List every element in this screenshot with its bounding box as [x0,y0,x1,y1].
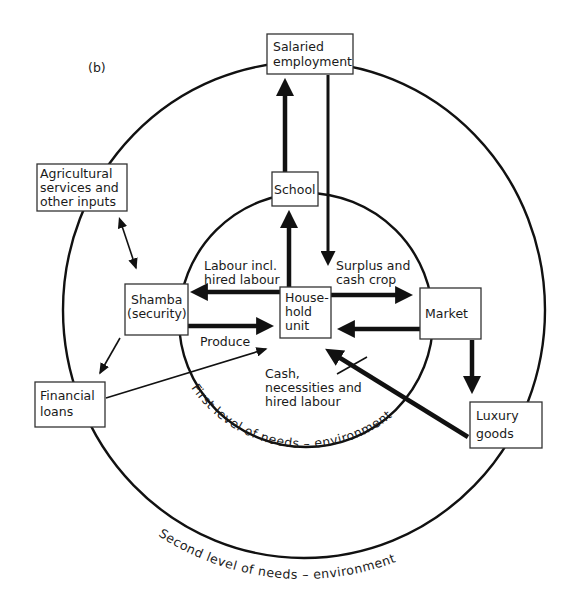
svg-text:employment: employment [273,54,352,69]
node-household-unit: House- hold unit [280,287,331,338]
arrow-agri-shamba [122,226,136,268]
svg-text:other inputs: other inputs [40,194,116,209]
svg-text:Labour incl.: Labour incl. [204,258,277,273]
panel-label: (b) [88,60,106,75]
svg-text:Cash,: Cash, [265,366,300,381]
svg-text:services and: services and [40,180,119,195]
arrow-shamba-to-loans [100,338,120,373]
svg-text:unit: unit [285,318,309,333]
svg-text:hired labour: hired labour [265,394,341,409]
svg-text:Shamba: Shamba [131,292,182,307]
svg-text:hired labour: hired labour [204,272,280,287]
label-cash: Cash, necessities and hired labour [265,366,362,409]
label-labour: Labour incl. hired labour [204,258,280,287]
node-market: Market [420,288,481,339]
svg-text:goods: goods [476,426,514,441]
node-school: School [272,172,318,206]
svg-text:Financial: Financial [40,388,95,403]
label-surplus: Surplus and cash crop [336,258,410,287]
svg-text:loans: loans [40,404,73,419]
svg-text:(security): (security) [127,306,187,321]
node-shamba: Shamba (security) [125,284,188,335]
needs-environment-diagram: (b) Salaried employment School Agricultu… [0,0,576,608]
arrow-loans-to-household [106,349,266,398]
node-salaried-employment: Salaried employment [267,34,353,74]
svg-text:House-: House- [285,290,329,305]
svg-text:Produce: Produce [200,334,251,349]
svg-text:hold: hold [285,304,312,319]
svg-text:Market: Market [425,306,468,321]
label-produce: Produce [200,334,251,349]
svg-text:cash crop: cash crop [336,272,396,287]
svg-text:Agricultural: Agricultural [40,166,112,181]
node-financial-loans: Financial loans [35,382,105,427]
svg-text:School: School [274,182,316,197]
node-luxury-goods: Luxury goods [470,402,542,448]
svg-text:Surplus and: Surplus and [336,258,410,273]
svg-text:Luxury: Luxury [476,408,519,423]
svg-text:necessities and: necessities and [265,380,362,395]
svg-text:Salaried: Salaried [273,39,324,54]
node-agricultural-services: Agricultural services and other inputs [37,164,127,211]
outer-ring-label: Second level of needs – environment [156,525,397,582]
